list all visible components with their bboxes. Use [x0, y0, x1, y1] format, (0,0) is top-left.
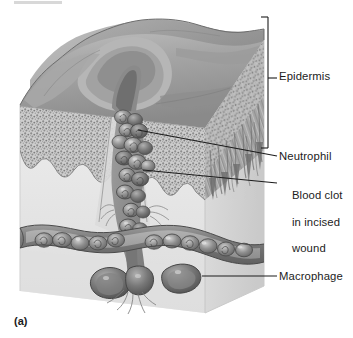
label-neutrophil: Neutrophil: [279, 150, 332, 163]
label-blood-clot-line2: in incised: [292, 216, 340, 228]
label-epidermis: Epidermis: [279, 70, 330, 83]
figure-caption-marker: (a): [14, 315, 27, 327]
label-blood-clot-line1: Blood clot: [292, 189, 343, 201]
figure-container: Epidermis Neutrophil Blood clot in incis…: [0, 0, 353, 338]
label-macrophage: Macrophage: [279, 270, 343, 283]
label-blood-clot: Blood clot in incised wound: [279, 176, 343, 268]
label-blood-clot-line3: wound: [292, 242, 326, 254]
wound-healing-illustration: [0, 0, 353, 338]
